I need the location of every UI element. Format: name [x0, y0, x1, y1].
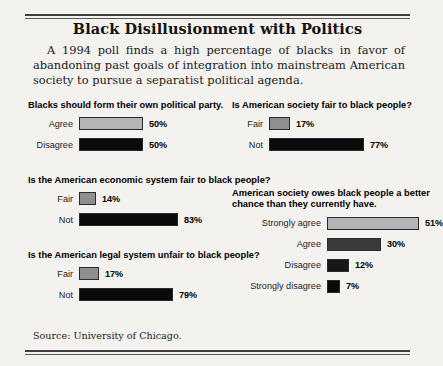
chart-row: Strongly disagree7%: [232, 279, 443, 294]
bar: [327, 217, 419, 230]
category-label: Agree: [232, 239, 327, 249]
bottom-rule-thin: [25, 354, 410, 355]
category-label: Strongly disagree: [232, 281, 327, 291]
bar: [327, 259, 349, 272]
chart-row: Disagree50%: [28, 137, 223, 152]
intro-paragraph: A 1994 poll finds a high percentage of b…: [33, 43, 405, 89]
chart-rows-political-party: Agree50%Disagree50%: [28, 116, 223, 152]
value-label: 50%: [143, 140, 167, 150]
top-rule: [25, 14, 410, 19]
category-label: Fair: [28, 269, 79, 279]
bar: [269, 117, 290, 130]
value-label: 51%: [419, 218, 443, 228]
bar: [269, 138, 364, 151]
value-label: 77%: [364, 140, 388, 150]
value-label: 17%: [99, 269, 123, 279]
chart-row: Agree30%: [232, 237, 443, 252]
chart-title-legal-system: Is the American legal system unfair to b…: [28, 250, 260, 261]
chart-row: Fair17%: [28, 266, 260, 281]
category-label: Not: [28, 290, 79, 300]
bar: [79, 192, 96, 205]
value-label: 30%: [381, 239, 405, 249]
value-label: 83%: [178, 215, 202, 225]
chart-row: Strongly agree51%: [232, 216, 443, 231]
category-label: Fair: [28, 194, 79, 204]
chart-rows-better-chance: Strongly agree51%Agree30%Disagree12%Stro…: [232, 216, 443, 294]
chart-title-better-chance: American society owes black people a bet…: [232, 188, 443, 211]
chart-block-political-party: Blacks should form their own political p…: [28, 100, 223, 152]
category-label: Agree: [28, 119, 79, 129]
bar: [79, 138, 143, 151]
chart-block-society-fair: Is American society fair to black people…: [232, 100, 412, 152]
chart-rows-legal-system: Fair17%Not79%: [28, 266, 260, 302]
source-note: Source: University of Chicago.: [33, 330, 182, 341]
value-label: 14%: [96, 194, 120, 204]
category-label: Disagree: [28, 140, 79, 150]
chart-title-political-party: Blacks should form their own political p…: [28, 100, 223, 111]
value-label: 12%: [349, 260, 373, 270]
chart-row: Disagree12%: [232, 258, 443, 273]
bar: [79, 288, 173, 301]
value-label: 50%: [143, 119, 167, 129]
chart-block-legal-system: Is the American legal system unfair to b…: [28, 250, 260, 302]
bar: [79, 117, 143, 130]
chart-title-economic-system: Is the American economic system fair to …: [28, 175, 271, 186]
chart-row: Not79%: [28, 287, 260, 302]
chart-row: Not77%: [232, 137, 412, 152]
value-label: 7%: [340, 281, 359, 291]
category-label: Strongly agree: [232, 218, 327, 228]
category-label: Not: [28, 215, 79, 225]
bar: [79, 267, 99, 280]
bottom-rule: [25, 350, 410, 355]
category-label: Fair: [232, 119, 269, 129]
chart-title-society-fair: Is American society fair to black people…: [232, 100, 412, 111]
bar: [327, 238, 381, 251]
value-label: 17%: [290, 119, 314, 129]
top-rule-thin: [25, 18, 410, 19]
chart-rows-society-fair: Fair17%Not77%: [232, 116, 412, 152]
bar: [79, 213, 178, 226]
value-label: 79%: [173, 290, 197, 300]
chart-row: Agree50%: [28, 116, 223, 131]
chart-block-better-chance: American society owes black people a bet…: [232, 188, 443, 294]
category-label: Not: [232, 140, 269, 150]
page-title: Black Disillusionment with Politics: [0, 20, 435, 37]
bar: [327, 280, 340, 293]
chart-row: Fair17%: [232, 116, 412, 131]
category-label: Disagree: [232, 260, 327, 270]
